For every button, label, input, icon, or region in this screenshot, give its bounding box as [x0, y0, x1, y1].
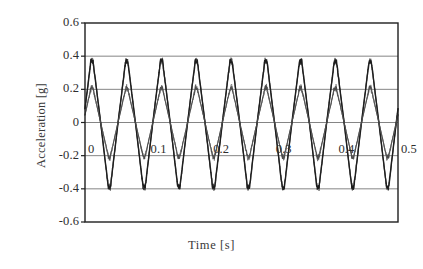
y-tick-label: 0.2: [23, 81, 79, 96]
y-tick-label: -0.4: [23, 181, 79, 196]
x-tick-label: 0.1: [151, 142, 167, 157]
series-large-amplitude-trace: [85, 58, 398, 191]
grid-lines: [85, 56, 398, 189]
series-large-amplitude-trace: [85, 58, 398, 190]
acceleration-time-chart: Acceleration [g] Time [s] 0.60.40.20-0.2…: [0, 0, 423, 269]
y-tick-label: 0.4: [23, 48, 79, 63]
x-tick-label: 0.5: [401, 142, 417, 157]
x-tick-label: 0.2: [213, 142, 229, 157]
series-large-amplitude-trace: [85, 59, 398, 189]
y-tick-label: 0: [23, 115, 79, 130]
y-tick-label: -0.6: [23, 214, 79, 229]
x-tick-label: 0.4: [338, 142, 354, 157]
y-tick-label: 0.6: [23, 15, 79, 30]
y-tick-label: -0.2: [23, 148, 79, 163]
data-traces: [85, 58, 398, 191]
x-axis-title: Time [s]: [0, 238, 423, 253]
x-tick-label: 0.3: [276, 142, 292, 157]
x-tick-label: 0: [88, 142, 94, 157]
